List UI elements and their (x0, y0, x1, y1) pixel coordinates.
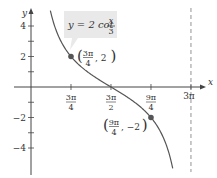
x-axis-arrow (200, 85, 206, 90)
x-tick-label-num: 9π (146, 93, 156, 102)
function-label: y = 2 cot x 3 (64, 11, 117, 50)
y-axis-label: y (21, 8, 28, 18)
point-label: (3π4, 2) (77, 47, 116, 68)
y-tick-label: −2 (13, 113, 26, 123)
x-tick-label: 3π (183, 91, 195, 101)
point-label-den: 4 (111, 128, 116, 137)
x-tick-label-num: 3π (106, 93, 116, 102)
x-axis-label: x (208, 77, 213, 87)
point-label: (9π4, −2) (103, 116, 148, 137)
point-label-num: 3π (83, 49, 93, 58)
point-label-y: , 2 (95, 53, 106, 63)
y-axis-arrow (29, 8, 34, 14)
point-label-paren-close: ) (111, 47, 117, 65)
point-marker (148, 115, 154, 121)
point-label-paren-close: ) (142, 116, 148, 134)
function-label-lhs: y = 2 cot (67, 19, 115, 30)
points: (3π4, 2)(9π4, −2) (68, 47, 154, 137)
y-tick-label: 4 (20, 21, 26, 31)
y-tick-label: −4 (13, 143, 27, 153)
y-tick-label: 2 (20, 52, 26, 62)
point-label-num: 9π (109, 118, 119, 127)
function-label-den: 3 (108, 27, 113, 36)
point-marker (68, 54, 74, 60)
x-tick-label-den: 2 (108, 103, 113, 112)
x-tick-label-den: 4 (68, 103, 73, 112)
function-label-num: x (109, 16, 114, 25)
point-label-y: , −2 (121, 122, 140, 132)
x-tick-label-den: 4 (148, 103, 153, 112)
cotangent-graph: xy 3π43π29π43π42−2−4 y = 2 cot x 3 (3π4,… (0, 0, 217, 178)
point-label-den: 4 (85, 59, 90, 68)
x-tick-label-num: 3π (66, 93, 76, 102)
